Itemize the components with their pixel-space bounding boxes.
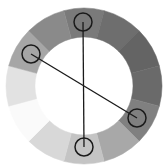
color-wheel-diagram: [0, 0, 168, 168]
connector-line: [83, 22, 84, 147]
